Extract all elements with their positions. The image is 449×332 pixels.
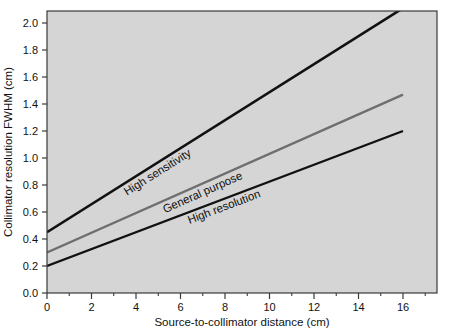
x-tick-label: 0: [44, 301, 50, 313]
x-tick-label: 8: [222, 301, 228, 313]
x-tick-label: 14: [352, 301, 364, 313]
x-tick-label: 2: [88, 301, 94, 313]
y-tick-label: 2.0: [23, 17, 38, 29]
y-tick-label: 0.2: [23, 260, 38, 272]
y-tick-label: 1.6: [23, 71, 38, 83]
plot-area-background: [47, 11, 437, 293]
y-tick-label: 0.4: [23, 233, 38, 245]
x-axis-title: Source-to-collimator distance (cm): [154, 316, 329, 328]
x-tick-label: 6: [177, 301, 183, 313]
x-axis: 0246810121416: [44, 293, 425, 313]
y-tick-label: 0.0: [23, 287, 38, 299]
y-tick-label: 1.4: [23, 98, 38, 110]
y-tick-label: 0.6: [23, 206, 38, 218]
y-axis: 0.00.20.40.60.81.01.21.41.61.82.0: [23, 17, 47, 299]
y-tick-label: 1.8: [23, 44, 38, 56]
y-tick-label: 0.8: [23, 179, 38, 191]
x-tick-label: 16: [397, 301, 409, 313]
y-tick-label: 1.0: [23, 152, 38, 164]
x-tick-label: 10: [263, 301, 275, 313]
chart-figure: 0.00.20.40.60.81.01.21.41.61.82.0 024681…: [0, 0, 449, 332]
collimator-resolution-chart: 0.00.20.40.60.81.01.21.41.61.82.0 024681…: [0, 0, 449, 332]
y-axis-title: Collimator resolution FWHM (cm): [2, 67, 14, 237]
x-tick-label: 4: [133, 301, 139, 313]
y-tick-label: 1.2: [23, 125, 38, 137]
x-tick-label: 12: [308, 301, 320, 313]
